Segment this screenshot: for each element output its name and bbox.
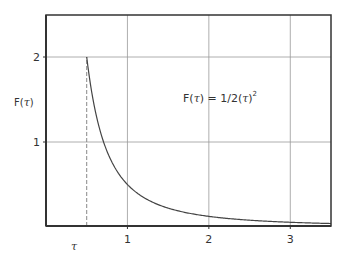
plot-frame bbox=[46, 15, 331, 226]
y-axis-label: F(τ) bbox=[14, 96, 34, 109]
x-axis-label: τ bbox=[71, 240, 78, 253]
y-tick-label: 2 bbox=[33, 51, 40, 64]
formula-annotation: F(τ) = 1/2(τ)2 bbox=[183, 90, 257, 105]
axis-ticks: 12312 bbox=[33, 51, 294, 246]
plot-border bbox=[46, 15, 331, 226]
chart: 12312 F(τ) τ F(τ) = 1/2(τ)2 bbox=[0, 0, 348, 265]
grid bbox=[46, 15, 331, 226]
x-tick-label: 2 bbox=[205, 233, 212, 246]
y-tick-label: 1 bbox=[33, 136, 40, 149]
x-tick-label: 3 bbox=[287, 233, 294, 246]
x-tick-label: 1 bbox=[124, 233, 131, 246]
